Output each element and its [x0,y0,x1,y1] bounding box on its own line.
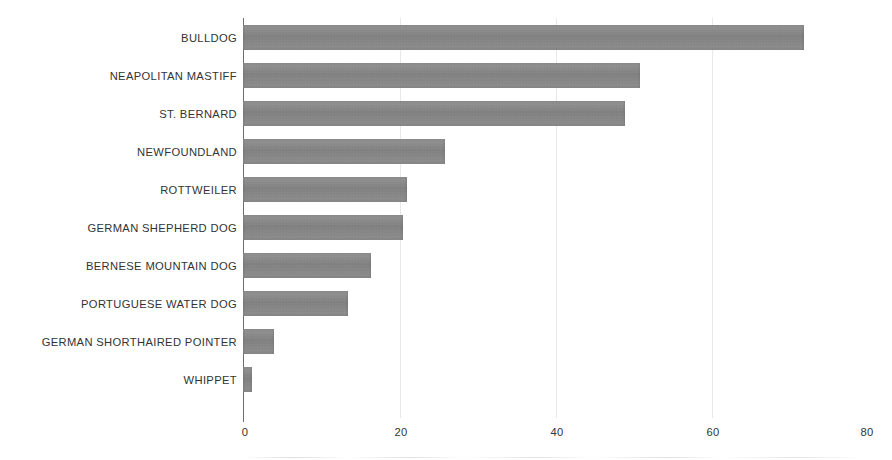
bar-bernese-mountain-dog[interactable] [243,253,371,278]
bar-row [243,132,892,170]
category-label: BERNESE MOUNTAIN DOG [7,259,237,273]
x-tick-label-60: 60 [706,426,719,438]
scan-artifact-line [243,457,888,458]
x-tick-label-0: 0 [242,426,249,438]
bar-chart: BULLDOG NEAPOLITAN MASTIFF ST. BERNARD N… [0,0,892,460]
category-label: PORTUGUESE WATER DOG [7,297,237,311]
bar-whippet[interactable] [243,367,252,392]
bar-row [243,18,892,56]
bar-row [243,284,892,322]
x-tick-label-20: 20 [394,426,407,438]
category-label: NEWFOUNDLAND [7,145,237,159]
bar-st-bernard[interactable] [243,101,625,126]
bar-row [243,360,892,398]
bar-bulldog[interactable] [243,25,804,50]
x-tick-label-80: 80 [860,426,873,438]
category-label: NEAPOLITAN MASTIFF [7,69,237,83]
bar-row [243,246,892,284]
bar-row [243,170,892,208]
category-label: BULLDOG [7,31,237,45]
category-label: ST. BERNARD [7,107,237,121]
plot-area [243,18,892,418]
bar-german-shepherd-dog[interactable] [243,215,403,240]
bar-german-shorthaired-pointer[interactable] [243,329,274,354]
bar-row [243,94,892,132]
bar-rottweiler[interactable] [243,177,407,202]
bar-newfoundland[interactable] [243,139,445,164]
bar-neapolitan-mastiff[interactable] [243,63,640,88]
category-label: GERMAN SHEPHERD DOG [7,221,237,235]
category-label: GERMAN SHORTHAIRED POINTER [7,335,237,349]
bar-row [243,322,892,360]
x-tick-label-40: 40 [550,426,563,438]
y-axis-category-labels: BULLDOG NEAPOLITAN MASTIFF ST. BERNARD N… [0,18,237,418]
bar-row [243,56,892,94]
category-label: WHIPPET [7,373,237,387]
bar-portuguese-water-dog[interactable] [243,291,348,316]
bar-row [243,208,892,246]
category-label: ROTTWEILER [7,183,237,197]
